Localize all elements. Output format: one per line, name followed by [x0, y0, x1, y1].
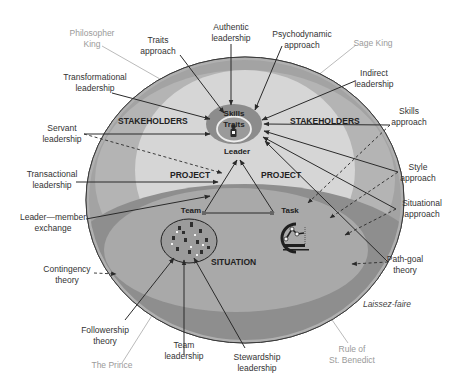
label-team-leadership: Team [174, 340, 195, 350]
bottom-theory-labels: Team leadership Stewardship leadership [164, 340, 280, 373]
label-situational: Situational [402, 198, 442, 208]
label-servant: Servant [47, 123, 77, 133]
label-leader-member-2: exchange [35, 223, 72, 233]
label-transformational: Transformational [63, 72, 127, 82]
label-servant-2: leadership [42, 134, 81, 144]
label-transactional: Transactional [27, 169, 78, 179]
label-style-approach: Style [409, 162, 428, 172]
label-situational-2: approach [404, 209, 440, 219]
label-transformational-2: leadership [75, 83, 114, 93]
label-skills-approach: Skills [399, 106, 419, 116]
situation-label: SITUATION [211, 257, 256, 267]
label-indirect: Indirect [360, 68, 389, 78]
label-stewardship: Stewardship [234, 352, 281, 362]
skills-label: Skills [224, 109, 245, 118]
label-followership-2: theory [93, 336, 117, 346]
leadership-theories-diagram: Skills Traits Leader Team Task [0, 0, 458, 388]
label-stewardship-2: leadership [237, 363, 276, 373]
stakeholders-left-label: STAKEHOLDERS [118, 116, 188, 126]
project-left-label: PROJECT [170, 170, 211, 180]
team-label: Team [181, 206, 201, 215]
label-rule-of-st-benedict: Rule of [339, 344, 367, 354]
label-contingency: Contingency [43, 264, 91, 274]
label-laissez-faire: Laissez-faire [363, 299, 411, 309]
label-path-goal: Path-goal [387, 254, 423, 264]
label-sage-king: Sage King [353, 38, 392, 48]
label-philosopher-king-2: King [83, 39, 100, 49]
traits-label: Traits [223, 120, 245, 129]
label-psychodynamic-2: approach [284, 40, 320, 50]
task-label: Task [281, 206, 299, 215]
label-the-prince: The Prince [91, 360, 132, 370]
situation-inner-region [104, 188, 368, 312]
label-leader-member: Leader—member [20, 212, 86, 222]
top-theory-labels: Traits approach Authentic leadership Psy… [140, 22, 332, 56]
label-followership: Followership [81, 325, 129, 335]
label-style-approach-2: approach [400, 173, 436, 183]
label-skills-approach-2: approach [391, 117, 427, 127]
leader-label: Leader [224, 147, 250, 156]
label-traits-approach-2: approach [140, 46, 176, 56]
team-group-icon [161, 219, 217, 263]
label-contingency-2: theory [55, 275, 79, 285]
label-traits-approach: Traits [148, 35, 169, 45]
label-path-goal-2: theory [393, 265, 417, 275]
label-philosopher-king: Philosopher [70, 28, 115, 38]
label-team-leadership-2: leadership [164, 351, 203, 361]
label-psychodynamic: Psychodynamic [272, 29, 332, 39]
label-authentic-2: leadership [211, 33, 250, 43]
label-authentic: Authentic [213, 22, 249, 32]
label-transactional-2: leadership [32, 180, 71, 190]
label-indirect-2: leadership [354, 79, 393, 89]
label-rule-of-st-benedict-2: St. Benedict [329, 355, 375, 365]
